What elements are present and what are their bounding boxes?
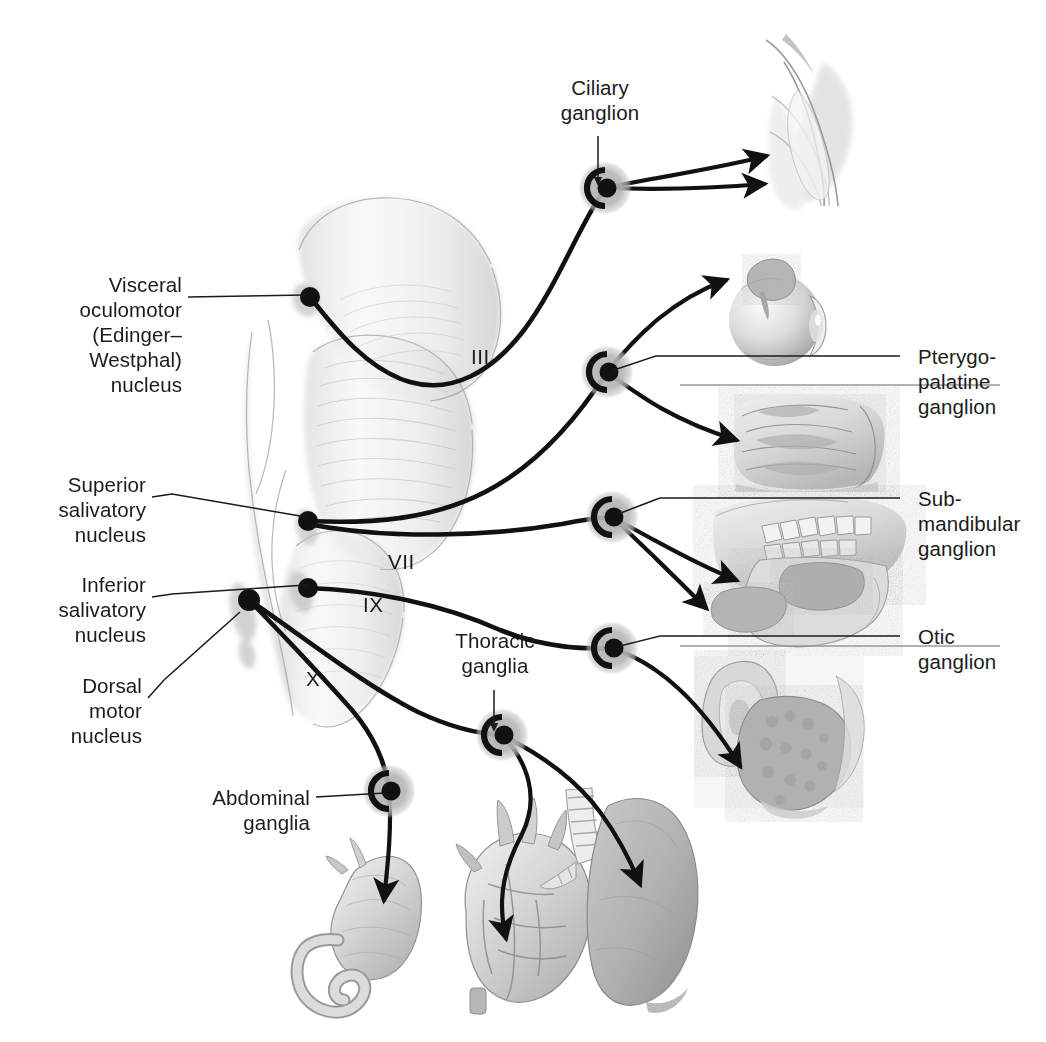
label-thoracic-ganglia: Thoracic ganglia — [410, 628, 580, 678]
abdominal-ganglia-marker — [362, 764, 416, 818]
numeral-glossopharyngeal-ix: IX — [363, 594, 384, 616]
stomach-intestine-illustration — [297, 838, 421, 1012]
label-pterygopalatine-ganglion: Pterygo- palatine ganglion — [918, 344, 1046, 419]
eye-anterior-segment-illustration — [766, 34, 853, 210]
leader-superior-salivatory — [152, 494, 306, 517]
pterygopalatine-ganglion-marker — [580, 345, 634, 399]
label-otic-ganglion: Otic ganglion — [918, 624, 1046, 674]
inferior-salivatory-nucleus-dot — [298, 578, 318, 598]
label-ciliary-ganglion: Ciliary ganglion — [515, 75, 685, 125]
thoracic-ganglia-marker — [475, 708, 529, 762]
label-visceral-oculomotor-nucleus: Visceral oculomotor (Edinger– Westphal) … — [0, 272, 182, 397]
ciliary-ganglion-marker — [578, 161, 632, 215]
numeral-oculomotor-iii: III — [471, 346, 490, 368]
dorsal-motor-nucleus-dot — [238, 589, 260, 611]
label-superior-salivatory-nucleus: Superior salivatory nucleus — [0, 472, 146, 547]
leader-dorsal-motor — [148, 612, 240, 698]
otic-ganglion-marker — [585, 621, 639, 675]
leader-visceral-oculomotor — [188, 295, 306, 297]
visceral-oculomotor-nucleus-dot — [300, 287, 320, 307]
numeral-vagus-x: X — [306, 668, 320, 690]
label-dorsal-motor-nucleus: Dorsal motor nucleus — [0, 673, 142, 748]
label-inferior-salivatory-nucleus: Inferior salivatory nucleus — [0, 572, 146, 647]
numeral-facial-vii: VII — [388, 551, 415, 573]
nasal-cavity-illustration — [734, 394, 886, 492]
submandibular-ganglion-marker — [585, 490, 639, 544]
diagram-artwork — [0, 0, 1046, 1042]
label-submandibular-ganglion: Sub- mandibular ganglion — [918, 486, 1046, 561]
parasympathetic-nervous-system-figure: Visceral oculomotor (Edinger– Westphal) … — [0, 0, 1046, 1042]
label-abdominal-ganglia: Abdominal ganglia — [120, 785, 310, 835]
superior-salivatory-nucleus-dot — [298, 511, 318, 531]
